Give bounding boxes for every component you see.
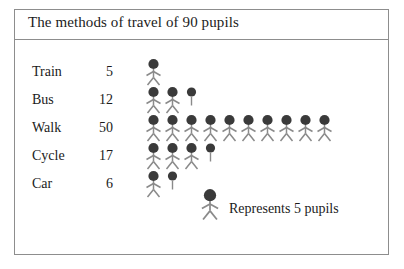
row-label-train: Train	[32, 64, 62, 80]
page-title: The methods of travel of 90 pupils	[28, 14, 239, 31]
table-row: Cycle17	[15, 142, 388, 170]
chart-title-band: The methods of travel of 90 pupils	[15, 10, 388, 40]
stick-figure-icon	[144, 86, 163, 114]
pictogram-chart-frame: The methods of travel of 90 pupils Train…	[14, 9, 389, 255]
stick-figure-icon	[239, 114, 258, 142]
stick-figure-icon	[315, 114, 334, 142]
legend-label: Represents 5 pupils	[229, 201, 339, 217]
row-value-train: 5	[71, 64, 113, 80]
stick-figure-icon	[277, 114, 296, 142]
row-label-car: Car	[32, 176, 52, 192]
pictogram-icons-cycle	[144, 142, 220, 170]
stick-figure-icon	[182, 114, 201, 142]
stick-figure-icon	[182, 142, 201, 170]
table-row: Walk50	[15, 114, 388, 142]
stick-figure-icon	[201, 114, 220, 142]
row-value-cycle: 17	[71, 148, 113, 164]
row-label-walk: Walk	[32, 120, 61, 136]
stick-figure-icon	[163, 114, 182, 142]
stick-figure-icon	[220, 114, 239, 142]
stick-figure-icon	[199, 188, 221, 222]
stick-figure-icon	[144, 58, 163, 86]
table-row: Bus12	[15, 86, 388, 114]
pictogram-icons-bus	[144, 86, 201, 114]
stick-figure-partial-icon	[182, 86, 201, 114]
stick-figure-icon	[163, 86, 182, 114]
pictogram-plot-area: Train5Bus12Walk50Cycle17Car6	[15, 40, 388, 255]
stick-figure-icon	[258, 114, 277, 142]
stick-figure-icon	[296, 114, 315, 142]
stick-figure-icon	[144, 142, 163, 170]
row-value-car: 6	[71, 176, 113, 192]
pictogram-icons-walk	[144, 114, 334, 142]
stick-figure-icon	[144, 114, 163, 142]
row-label-bus: Bus	[32, 92, 54, 108]
stick-figure-partial-icon	[201, 142, 220, 170]
pictogram-icons-car	[144, 170, 182, 198]
stick-figure-icon	[163, 142, 182, 170]
stick-figure-icon	[144, 170, 163, 198]
pictogram-icons-train	[144, 58, 163, 86]
table-row: Train5	[15, 58, 388, 86]
row-value-walk: 50	[71, 120, 113, 136]
row-value-bus: 12	[71, 92, 113, 108]
stick-figure-partial-icon	[163, 170, 182, 198]
row-label-cycle: Cycle	[32, 148, 65, 164]
